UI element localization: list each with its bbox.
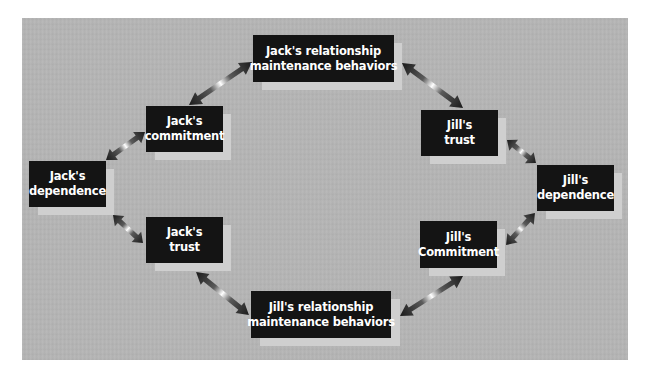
node-box: Jack's commitment — [146, 106, 223, 152]
node-label-line2: trust — [169, 240, 200, 255]
node-label-line1: Jill's relationship — [269, 300, 374, 315]
node-label-line1: Jack's relationship — [266, 44, 381, 59]
node-label-line1: Jill's — [563, 173, 588, 188]
node-label-line1: Jill's — [447, 118, 472, 133]
node-label-line2: trust — [444, 133, 475, 148]
node-label-line2: dependence — [537, 188, 614, 203]
node-box: Jill's relationship maintenance behavior… — [251, 291, 391, 338]
node-label-line1: Jack's — [167, 225, 203, 240]
node-label-line2: maintenance behaviors — [250, 59, 398, 74]
node-label-line2: dependence — [29, 184, 106, 199]
node-label-line1: Jack's — [167, 114, 203, 129]
node-label-line2: maintenance behaviors — [247, 315, 395, 330]
node-label-line2: commitment — [145, 129, 225, 144]
node-box: Jill's trust — [421, 110, 498, 156]
node-box: Jill's dependence — [537, 165, 614, 211]
node-label-line2: Commitment — [418, 245, 499, 260]
node-box: Jack's trust — [146, 217, 223, 263]
node-box: Jill's Commitment — [420, 221, 497, 268]
node-label-line1: Jack's — [50, 169, 86, 184]
node-box: Jack's dependence — [29, 161, 106, 207]
node-label-line1: Jill's — [446, 230, 471, 245]
node-box: Jack's relationship maintenance behavior… — [253, 35, 394, 82]
